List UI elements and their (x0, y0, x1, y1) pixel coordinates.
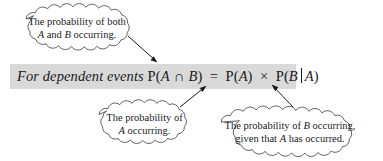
formula-var-a-left: A (161, 68, 170, 84)
formula-intersection-symbol: ∩ (174, 68, 185, 84)
conditional-bar-icon (301, 68, 302, 83)
callout-prob-a-text: The probability of A occurring. (88, 101, 201, 146)
formula-equals-sign: = (210, 68, 218, 84)
formula-close-paren-cond: ) (314, 68, 319, 84)
callout-prob-a-line2: A occurring. (119, 124, 171, 137)
callout-cloud-prob-a: The probability of A occurring. (88, 101, 201, 146)
formula-p-open-left: P( (148, 68, 161, 84)
formula-var-a-cond: A (305, 68, 314, 84)
callout-prob-a-line2-tail: occurring. (125, 125, 170, 136)
callout-prob-b-line2-head: given that (235, 133, 279, 144)
callout-prob-b-line1-tail: occurring, (310, 120, 355, 131)
formula-var-b-cond: B (289, 68, 298, 84)
callout-both-line2: A and B occurring. (38, 28, 117, 41)
formula-p-open-cond: P( (276, 68, 289, 84)
callout-prob-b-line2-tail: has occurred. (286, 133, 345, 144)
callout-prob-a-line1: The probability of (106, 111, 182, 124)
callout-prob-b-line1-head: The probability of (225, 120, 304, 131)
formula-var-a-right: A (239, 68, 248, 84)
probability-formula-figure: For dependent events P(A ∩ B) = P(A) × P… (0, 0, 383, 161)
formula-p-open-a: P( (226, 68, 239, 84)
callout-prob-b-text: The probability of B occurring, given th… (209, 107, 371, 156)
callout-cloud-prob-b-given-a: The probability of B occurring, given th… (209, 107, 371, 156)
callout-prob-b-line2: given that A has occurred. (235, 132, 344, 145)
callout-both-line1: The probability of both (28, 15, 126, 28)
callout-both-conjunction: and (44, 29, 64, 40)
callout-both-line2-tail: occurring. (71, 29, 116, 40)
formula-expression: For dependent events P(A ∩ B) = P(A) × P… (17, 65, 297, 88)
callout-cloud-both: The probability of both A and B occurrin… (14, 5, 140, 51)
formula-lead-in: For dependent events (17, 68, 144, 84)
callout-both-text: The probability of both A and B occurrin… (14, 5, 140, 51)
callout-prob-b-line1: The probability of B occurring, (225, 119, 356, 132)
